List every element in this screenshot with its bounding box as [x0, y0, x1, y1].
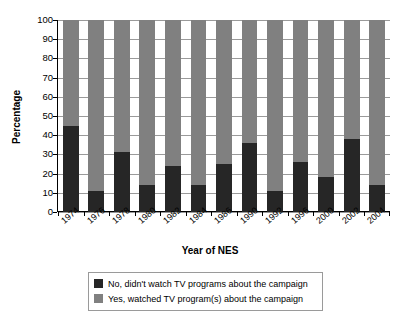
- y-axis-tick-label: 100: [23, 14, 53, 25]
- bar-segment-no: [344, 139, 360, 212]
- bars-layer: [58, 20, 390, 212]
- x-axis-tick-mark-end: [389, 212, 405, 216]
- bar-group: [364, 20, 390, 212]
- y-axis-tick-mark: [53, 135, 57, 136]
- bar-segment-no: [63, 126, 79, 212]
- bar-stack: [369, 20, 385, 212]
- y-axis-tick-mark: [53, 58, 57, 59]
- bar-group: [135, 20, 161, 212]
- x-axis-tick-label-cell: 2000: [313, 216, 339, 246]
- y-axis-tick-label: 50: [23, 110, 53, 121]
- y-axis-tick-labels: 0102030405060708090100: [20, 20, 53, 212]
- y-axis-tick-mark: [53, 20, 57, 21]
- x-axis-tick-label-cell: 1984: [186, 216, 212, 246]
- bar-group: [288, 20, 314, 212]
- chart-legend: No, didn't watch TV programs about the c…: [88, 272, 323, 311]
- y-axis-tick-mark: [53, 116, 57, 117]
- x-axis-tick-labels: 1974197619781980198219841986199019921996…: [58, 216, 390, 246]
- bar-segment-no: [216, 164, 232, 212]
- bar-segment-yes: [369, 20, 385, 185]
- bar-segment-no: [242, 143, 258, 212]
- y-axis-tick-mark: [53, 193, 57, 194]
- bar-group: [262, 20, 288, 212]
- x-axis-tick-label-cell: 1996: [288, 216, 314, 246]
- x-axis-tick-label-cell: 1982: [160, 216, 186, 246]
- bar-stack: [88, 20, 104, 212]
- bar-segment-yes: [216, 20, 232, 164]
- bar-segment-yes: [293, 20, 309, 162]
- bar-group: [339, 20, 365, 212]
- x-axis-tick-label-cell: 1980: [135, 216, 161, 246]
- bar-stack: [216, 20, 232, 212]
- bar-segment-yes: [88, 20, 104, 191]
- y-axis-tick-mark: [53, 174, 57, 175]
- bar-stack: [191, 20, 207, 212]
- bar-segment-yes: [267, 20, 283, 191]
- bar-stack: [139, 20, 155, 212]
- bar-group: [211, 20, 237, 212]
- bar-segment-no: [165, 166, 181, 212]
- x-axis-tick-label-cell: 1990: [237, 216, 263, 246]
- x-axis-tick-label-cell: 1974: [58, 216, 84, 246]
- legend-swatch-icon: [94, 279, 103, 288]
- stacked-bar-chart: Percentage 0102030405060708090100 197419…: [0, 0, 405, 326]
- bar-group: [84, 20, 110, 212]
- y-axis-tick-mark: [53, 212, 57, 213]
- bar-segment-yes: [165, 20, 181, 166]
- bar-segment-yes: [139, 20, 155, 185]
- legend-item[interactable]: Yes, watched TV program(s) about the cam…: [94, 291, 317, 306]
- bar-stack: [293, 20, 309, 212]
- y-axis-tick-label: 60: [23, 91, 53, 102]
- y-axis-tick-label: 20: [23, 168, 53, 179]
- bar-segment-yes: [191, 20, 207, 185]
- bar-group: [109, 20, 135, 212]
- legend-item[interactable]: No, didn't watch TV programs about the c…: [94, 276, 317, 291]
- bar-segment-yes: [63, 20, 79, 126]
- bar-stack: [318, 20, 334, 212]
- y-axis-tick-mark: [53, 154, 57, 155]
- y-axis-tick-label: 0: [23, 206, 53, 217]
- bar-stack: [165, 20, 181, 212]
- bar-group: [237, 20, 263, 212]
- y-axis-tick-label: 80: [23, 52, 53, 63]
- bar-group: [313, 20, 339, 212]
- bar-segment-no: [293, 162, 309, 212]
- legend-swatch-icon: [94, 294, 103, 303]
- x-axis-title: Year of NES: [50, 245, 370, 256]
- x-axis-tick-label-cell: 1986: [211, 216, 237, 246]
- bar-segment-no: [114, 152, 130, 212]
- bar-group: [58, 20, 84, 212]
- y-axis-tick-mark: [53, 78, 57, 79]
- bar-segment-yes: [242, 20, 258, 143]
- x-axis-tick-label-cell: 1992: [262, 216, 288, 246]
- bar-group: [186, 20, 212, 212]
- y-axis-tick-label: 90: [23, 33, 53, 44]
- y-axis-tick-label: 70: [23, 72, 53, 83]
- y-axis-tick-label: 30: [23, 148, 53, 159]
- bar-segment-yes: [344, 20, 360, 139]
- y-axis-tick-mark: [53, 97, 57, 98]
- x-axis-tick-label-cell: 2002: [339, 216, 365, 246]
- y-axis-tick-label: 10: [23, 187, 53, 198]
- x-axis-tick-label-cell: 2004: [364, 216, 390, 246]
- legend-label: No, didn't watch TV programs about the c…: [108, 279, 308, 289]
- bar-segment-yes: [318, 20, 334, 177]
- y-axis-tick-label: 40: [23, 129, 53, 140]
- y-axis-tick-mark: [53, 39, 57, 40]
- bar-stack: [242, 20, 258, 212]
- bar-stack: [114, 20, 130, 212]
- bar-group: [160, 20, 186, 212]
- x-axis-tick-label-cell: 1978: [109, 216, 135, 246]
- bar-stack: [63, 20, 79, 212]
- bar-stack: [344, 20, 360, 212]
- bar-segment-yes: [114, 20, 130, 152]
- legend-label: Yes, watched TV program(s) about the cam…: [108, 294, 303, 304]
- bar-stack: [267, 20, 283, 212]
- x-axis-tick-label-cell: 1976: [84, 216, 110, 246]
